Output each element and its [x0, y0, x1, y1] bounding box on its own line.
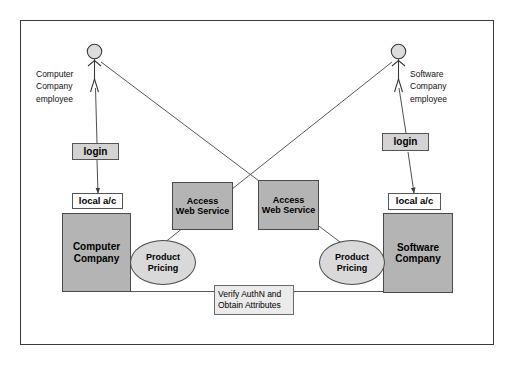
use-case-product-pricing-right[interactable]: Product Pricing [319, 240, 385, 285]
system-box-computer-company[interactable]: Computer Company [62, 213, 131, 292]
verify-authn-note[interactable]: Verify AuthN and Obtain Attributes [214, 285, 294, 315]
login-box-left[interactable]: login [72, 143, 119, 160]
access-web-service-box-left[interactable]: Access Web Service [172, 182, 233, 230]
login-box-right[interactable]: login [382, 133, 429, 151]
local-ac-box-left[interactable]: local a/c [72, 193, 123, 209]
actor-label-computer-company-employee: Computer Company employee [36, 68, 96, 105]
system-box-software-company[interactable]: Software Company [383, 213, 453, 293]
local-ac-box-right[interactable]: local a/c [388, 193, 441, 210]
use-case-product-pricing-left[interactable]: Product Pricing [130, 240, 196, 285]
verify-authn-note-line2: Obtain Attributes [218, 300, 281, 311]
diagram-canvas: Computer Company employee Software Compa… [0, 0, 514, 366]
actor-label-software-company-employee: Software Company employee [410, 68, 476, 105]
access-web-service-box-right[interactable]: Access Web Service [258, 180, 319, 230]
verify-authn-note-line1: Verify AuthN and [218, 289, 281, 300]
